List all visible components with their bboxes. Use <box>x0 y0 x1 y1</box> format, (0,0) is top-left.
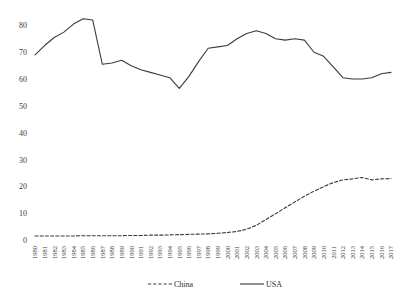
legend-label-china: China <box>174 280 194 289</box>
x-tick-label-2013: 2013 <box>349 246 356 259</box>
x-tick-label-2012: 2012 <box>339 246 346 259</box>
y-tick-label-10: 10 <box>19 209 27 218</box>
y-tick-label-30: 30 <box>19 156 27 165</box>
x-tick-label-1984: 1984 <box>70 245 77 259</box>
x-tick-label-2002: 2002 <box>243 246 250 259</box>
x-tick-label-2014: 2014 <box>358 245 365 259</box>
x-tick-label-2001: 2001 <box>233 246 240 259</box>
x-tick-label-2009: 2009 <box>310 246 317 259</box>
x-tick-label-1987: 1987 <box>99 245 106 259</box>
x-tick-label-2016: 2016 <box>378 245 385 259</box>
x-tick-label-1989: 1989 <box>118 246 125 259</box>
series-line-china <box>35 178 391 236</box>
x-tick-label-2007: 2007 <box>291 245 298 259</box>
x-tick-label-1986: 1986 <box>89 245 96 259</box>
x-tick-label-2004: 2004 <box>262 245 269 259</box>
series-lines <box>35 19 391 236</box>
x-tick-label-2017: 2017 <box>387 245 394 259</box>
x-tick-label-1983: 1983 <box>60 246 67 259</box>
y-tick-label-70: 70 <box>19 48 27 57</box>
chart-canvas: 01020304050607080 1980198119821983198419… <box>0 0 401 299</box>
x-tick-label-1990: 1990 <box>128 246 135 259</box>
x-tick-label-1998: 1998 <box>204 246 211 259</box>
x-tick-label-2006: 2006 <box>281 245 288 259</box>
x-tick-label-2003: 2003 <box>253 246 260 259</box>
x-tick-label-2008: 2008 <box>301 246 308 259</box>
x-tick-label-2015: 2015 <box>368 246 375 259</box>
line-chart: 01020304050607080 1980198119821983198419… <box>0 0 401 299</box>
x-tick-label-2011: 2011 <box>330 246 337 259</box>
legend-label-usa: USA <box>266 280 282 289</box>
x-tick-label-1995: 1995 <box>176 246 183 259</box>
chart-legend: ChinaUSA <box>148 280 282 289</box>
y-axis-tick-labels: 01020304050607080 <box>19 21 27 245</box>
x-tick-label-1991: 1991 <box>137 246 144 259</box>
x-tick-label-1988: 1988 <box>108 246 115 259</box>
y-tick-label-50: 50 <box>19 102 27 111</box>
x-tick-label-1994: 1994 <box>166 245 173 259</box>
y-tick-label-40: 40 <box>19 129 27 138</box>
y-tick-label-0: 0 <box>23 236 27 245</box>
x-tick-label-1982: 1982 <box>51 246 58 259</box>
y-tick-label-80: 80 <box>19 21 27 30</box>
x-tick-label-2000: 2000 <box>224 246 231 259</box>
x-tick-label-2010: 2010 <box>320 246 327 259</box>
x-tick-label-1985: 1985 <box>79 246 86 259</box>
x-axis-tick-labels: 1980198119821983198419851986198719881989… <box>31 245 394 259</box>
y-tick-label-20: 20 <box>19 182 27 191</box>
x-tick-label-1999: 1999 <box>214 246 221 259</box>
series-line-usa <box>35 19 391 89</box>
x-tick-label-2005: 2005 <box>272 246 279 259</box>
x-tick-label-1981: 1981 <box>41 246 48 259</box>
y-tick-label-60: 60 <box>19 75 27 84</box>
x-tick-label-1980: 1980 <box>31 246 38 259</box>
x-tick-label-1992: 1992 <box>147 246 154 259</box>
x-tick-label-1996: 1996 <box>185 245 192 259</box>
x-tick-label-1997: 1997 <box>195 245 202 259</box>
x-tick-label-1993: 1993 <box>156 246 163 259</box>
